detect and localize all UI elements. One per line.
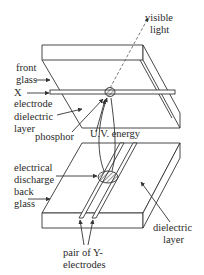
label-x-electrode-2: electrode [14,98,53,109]
dielectric-layer-top-pointer [57,109,82,115]
label-back-glass-1: back [14,186,35,197]
label-front-glass-1: front [16,62,36,73]
plasma-display-diagram: visible light front glass X electrode di… [0,0,204,275]
front-glass-side-face [143,45,180,128]
label-electrical-discharge-1: electrical [14,162,53,173]
discharge-spot [98,171,118,183]
front-glass-edge-face [42,45,143,60]
label-electrical-discharge-2: discharge [14,174,54,185]
label-uv-energy: U.V. energy [90,128,141,139]
label-visible-light-1: visible [145,12,173,23]
label-x-electrode-1: X [14,87,22,98]
label-front-glass-2: glass [16,74,37,85]
label-dielectric-layer-top-1: dielectric [14,111,53,122]
label-dielectric-layer-bottom-2: layer [163,234,184,245]
label-dielectric-layer-bottom-1: dielectric [153,222,192,233]
label-back-glass-2: glass [14,198,35,209]
label-phosphor: phosphor [35,131,75,142]
label-dielectric-layer-top-2: layer [14,123,35,134]
label-y-electrodes-2: electrodes [63,259,106,270]
label-visible-light-2: light [150,24,169,35]
phosphor-spot [105,88,115,97]
label-y-electrodes-1: pair of Y- [63,247,103,258]
